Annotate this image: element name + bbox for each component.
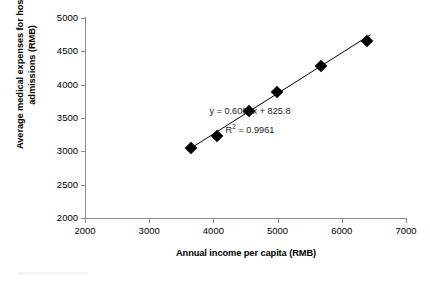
r-squared-value: R2 = 0.9961 [185,119,315,138]
x-tick-mark [85,218,86,223]
y-tick-label: 2000 [57,213,78,223]
x-tick-mark [149,218,150,223]
y-axis-title: Average medical expenses for hospital ad… [8,0,44,175]
y-tick-label: 4000 [57,80,78,90]
x-tick-label: 5000 [267,226,288,236]
x-tick-label: 7000 [395,226,416,236]
y-tick-label: 5000 [57,13,78,23]
y-tick-label: 3500 [57,113,78,123]
x-tick-mark [342,218,343,223]
regression-annotation: y = 0.6086x + 825.8 R2 = 0.9961 [185,104,315,138]
x-tick-mark [406,218,407,223]
regression-equation: y = 0.6086x + 825.8 [185,104,315,119]
scan-artifact [18,272,88,275]
y-tick-label: 4500 [57,47,78,57]
x-tick-label: 4000 [203,226,224,236]
r-squared-number: = 0.9961 [236,125,275,135]
chart-figure: Average medical expenses for hospital ad… [0,0,430,282]
x-tick-label: 6000 [331,226,352,236]
x-tick-mark [278,218,279,223]
x-tick-mark [213,218,214,223]
y-tick-label: 3000 [57,147,78,157]
x-tick-label: 2000 [74,226,95,236]
x-axis-line [85,218,407,219]
y-tick-label: 2500 [57,180,78,190]
x-tick-label: 3000 [139,226,160,236]
x-axis-title: Annual income per capita (RMB) [85,248,407,258]
